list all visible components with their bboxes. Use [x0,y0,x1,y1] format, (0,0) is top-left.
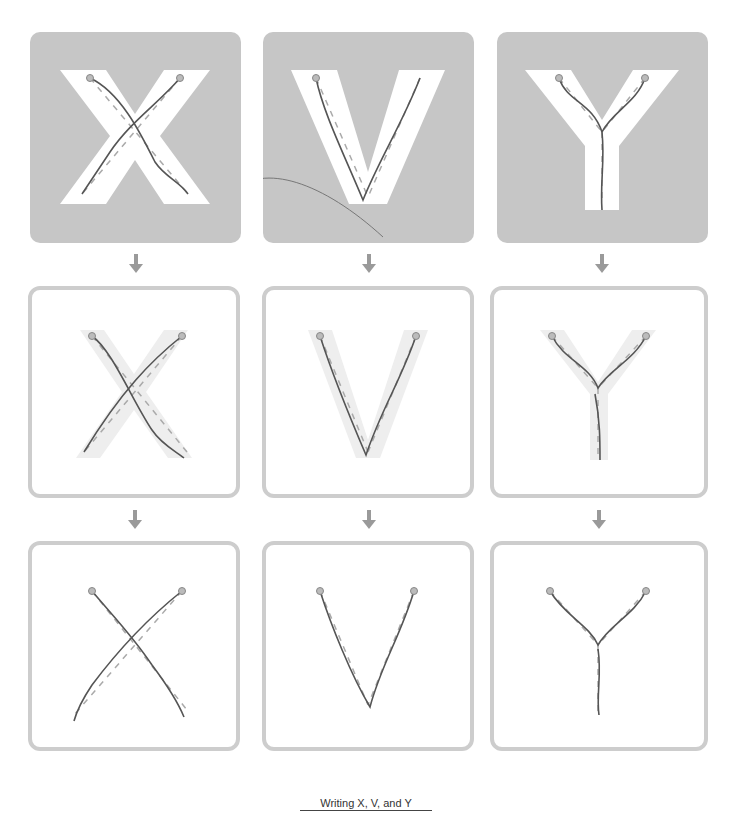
letter-y-dots [494,545,704,747]
caption-text: Writing X, V, and Y [300,797,432,811]
arrow-down-icon [362,510,376,530]
arrow-down-icon [128,510,142,530]
letter-x-dots [32,545,236,747]
arrow-down-icon [362,254,376,274]
tracing-box-y-row1 [497,32,708,243]
tracing-box-v-row2 [262,286,474,498]
letter-y-guide [494,290,704,494]
letter-v-dots [266,545,470,747]
tracing-box-x-row3 [28,541,240,751]
arrow-down-icon [595,254,609,274]
tracing-box-v-row3 [262,541,474,751]
letter-v-guide [266,290,470,494]
letter-v-outline [263,32,474,243]
arrow-down-icon [592,510,606,530]
letter-x-outline [30,32,241,243]
tracing-box-v-row1 [263,32,474,243]
tracing-box-y-row2 [490,286,708,498]
tracing-box-y-row3 [490,541,708,751]
arrow-down-icon [129,254,143,274]
tracing-box-x-row1 [30,32,241,243]
letter-x-guide [32,290,236,494]
tracing-box-x-row2 [28,286,240,498]
letter-y-outline [497,32,708,243]
worksheet-caption: Writing X, V, and Y [0,797,732,811]
